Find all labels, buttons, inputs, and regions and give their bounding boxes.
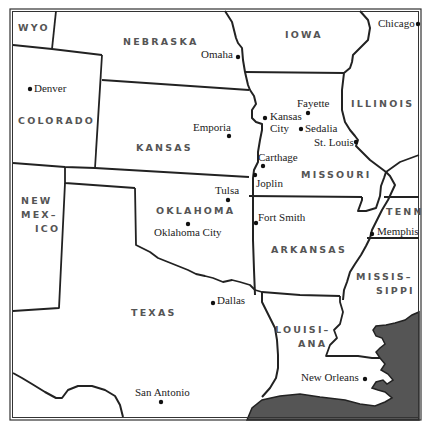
svg-text:Carthage: Carthage (258, 151, 298, 163)
state-label-kansas: KANSAS (136, 142, 193, 153)
city-dot-icon (236, 55, 240, 59)
city-dot-icon (306, 111, 310, 115)
state-label-illinois: ILLINOIS (351, 98, 414, 109)
svg-text:Sedalia: Sedalia (305, 122, 337, 134)
city-chicago: Chicago (378, 17, 420, 29)
svg-text:Kansas: Kansas (270, 110, 302, 122)
state-label-louisiana-2: ANA (298, 338, 327, 349)
city-dot-icon (28, 87, 32, 91)
svg-text:St. Louis: St. Louis (314, 136, 354, 148)
state-label-new-mexico-1: NEW (21, 195, 53, 206)
city-dot-icon (226, 198, 230, 202)
map-background (0, 0, 430, 433)
city-new-orleans: New Orleans (301, 371, 367, 383)
state-label-tennessee: TENN (386, 206, 424, 217)
state-label-nebraska: NEBRASKA (123, 36, 199, 47)
city-dot-icon (211, 301, 215, 305)
svg-text:Oklahoma City: Oklahoma City (154, 226, 222, 238)
city-dot-icon (263, 116, 267, 120)
svg-text:Emporia: Emporia (193, 121, 231, 133)
state-label-mississippi-2: SIPPI (376, 285, 415, 296)
city-dot-icon (261, 164, 265, 168)
city-dot-icon (363, 377, 367, 381)
state-label-missouri: MISSOURI (301, 169, 372, 180)
city-dot-icon (227, 134, 231, 138)
state-label-colorado: COLORADO (18, 115, 95, 126)
state-label-new-mexico-3: ICO (35, 223, 60, 234)
city-dot-icon (299, 127, 303, 131)
city-dot-icon (370, 232, 374, 236)
state-label-wyo: WYO (18, 22, 50, 33)
state-label-louisiana-1: LOUISI– (275, 324, 331, 335)
svg-text:Tulsa: Tulsa (215, 184, 239, 196)
city-dot-icon (354, 140, 358, 144)
city-dot-icon (416, 22, 420, 26)
state-label-iowa: IOWA (285, 29, 323, 40)
svg-text:Chicago: Chicago (378, 17, 415, 29)
map: WYO NEBRASKA IOWA COLORADO KANSAS ILLINO… (0, 0, 430, 433)
city-dot-icon (159, 400, 163, 404)
state-label-texas: TEXAS (131, 307, 177, 318)
state-label-new-mexico-2: MEX– (21, 209, 58, 220)
svg-text:New Orleans: New Orleans (301, 371, 359, 383)
city-sedalia: Sedalia (299, 122, 338, 134)
svg-text:Omaha: Omaha (201, 48, 233, 60)
svg-text:Fayette: Fayette (297, 97, 329, 109)
svg-text:Denver: Denver (34, 82, 67, 94)
state-label-arkansas: ARKANSAS (271, 244, 347, 255)
city-memphis: Memphis (370, 225, 419, 237)
city-st-louis: St. Louis (314, 136, 358, 148)
state-label-mississippi-1: MISSIS– (356, 271, 413, 282)
svg-text:Dallas: Dallas (217, 294, 245, 306)
city-denver: Denver (28, 82, 67, 94)
svg-text:San Antonio: San Antonio (135, 386, 190, 398)
svg-text:Joplin: Joplin (256, 177, 283, 189)
state-label-oklahoma: OKLAHOMA (156, 205, 235, 216)
svg-text:Fort Smith: Fort Smith (258, 211, 306, 223)
svg-text:Memphis: Memphis (377, 225, 419, 237)
svg-text:City: City (270, 122, 289, 134)
